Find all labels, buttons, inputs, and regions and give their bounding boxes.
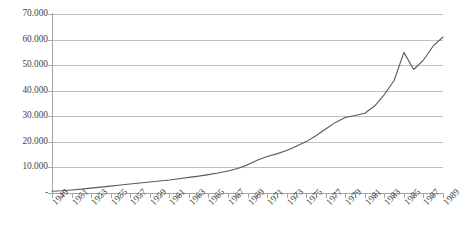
- x-axis-labels: 1949195119531955195719591961196319651967…: [0, 194, 452, 238]
